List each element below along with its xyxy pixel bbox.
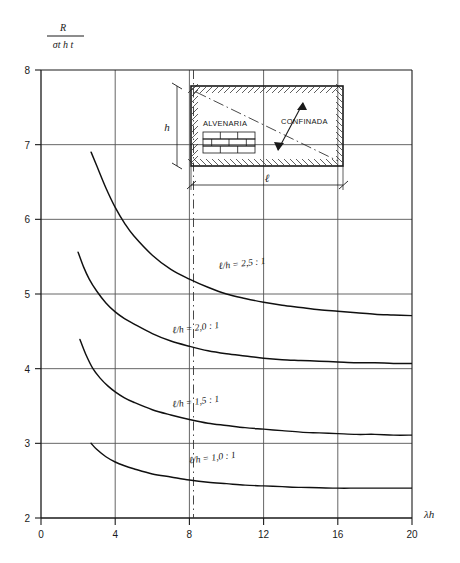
x-tick-label-20: 20 bbox=[406, 529, 418, 540]
y-tick-label-7: 7 bbox=[24, 140, 30, 151]
x-tick-label-4: 4 bbox=[112, 529, 118, 540]
y-tick-label-6: 6 bbox=[24, 214, 30, 225]
y-axis-title-denominator: σt h t bbox=[53, 39, 74, 50]
x-tick-label-0: 0 bbox=[38, 529, 44, 540]
inset-length-label: ℓ bbox=[265, 172, 270, 184]
x-tick-label-12: 12 bbox=[258, 529, 270, 540]
inset-label-confinada: CONFINADA bbox=[281, 117, 328, 126]
y-axis-title-numerator: R bbox=[59, 22, 66, 33]
chart-figure: 048121620 2345678 R σt h t λh ℓ/h = 2,5 … bbox=[0, 0, 460, 563]
chart-canvas: 048121620 2345678 R σt h t λh ℓ/h = 2,5 … bbox=[0, 0, 460, 563]
inset-label-alvenaria: ALVENARIA bbox=[203, 119, 247, 128]
figure-background bbox=[0, 0, 460, 563]
y-tick-label-2: 2 bbox=[24, 513, 30, 524]
y-tick-label-3: 3 bbox=[24, 438, 30, 449]
y-tick-label-8: 8 bbox=[24, 65, 30, 76]
x-tick-label-8: 8 bbox=[187, 529, 193, 540]
y-tick-label-5: 5 bbox=[24, 289, 30, 300]
x-axis-title: λh bbox=[423, 508, 435, 520]
y-tick-label-4: 4 bbox=[24, 364, 30, 375]
x-tick-label-16: 16 bbox=[332, 529, 344, 540]
inset-height-label: h bbox=[164, 121, 170, 133]
